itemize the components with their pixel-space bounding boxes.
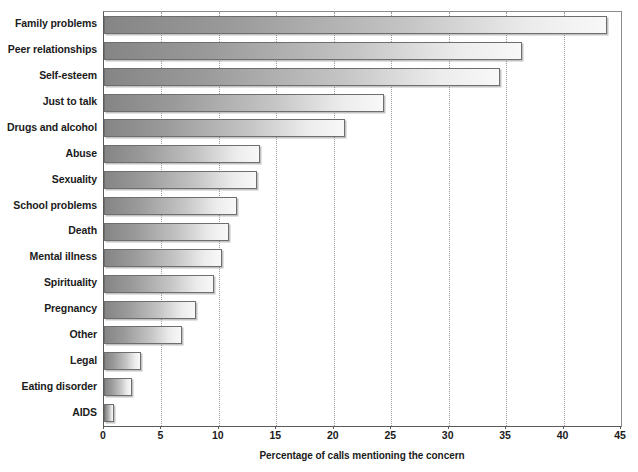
plot-area (103, 11, 622, 427)
category-label: School problems (0, 200, 97, 211)
category-label: Self-esteem (0, 70, 97, 81)
category-label: Death (0, 225, 97, 236)
bar (104, 145, 260, 163)
category-label: Other (0, 329, 97, 340)
category-label: Peer relationships (0, 44, 97, 55)
category-label: Eating disorder (0, 381, 97, 392)
bar (104, 249, 222, 267)
category-label: Pregnancy (0, 303, 97, 314)
bar (104, 119, 345, 137)
bar (104, 352, 141, 370)
bar (104, 223, 229, 241)
category-label: Drugs and alcohol (0, 122, 97, 133)
category-label: Just to talk (0, 96, 97, 107)
x-tick-label: 20 (313, 429, 353, 441)
category-label: Sexuality (0, 174, 97, 185)
x-tick-label: 40 (543, 429, 583, 441)
category-label: Abuse (0, 148, 97, 159)
bar (104, 404, 114, 422)
x-tick-label: 30 (428, 429, 468, 441)
category-label: Mental illness (0, 251, 97, 262)
x-tick-label: 35 (485, 429, 525, 441)
category-label: Spirituality (0, 277, 97, 288)
category-axis: Family problemsPeer relationshipsSelf-es… (0, 11, 97, 425)
bar-chart: Family problemsPeer relationshipsSelf-es… (0, 0, 638, 472)
bar (104, 301, 196, 319)
x-tick-label: 5 (140, 429, 180, 441)
x-tick-label: 45 (600, 429, 638, 441)
bar (104, 171, 257, 189)
x-tick-label: 10 (198, 429, 238, 441)
category-label: Legal (0, 355, 97, 366)
bar (104, 275, 214, 293)
bar (104, 326, 182, 344)
bar-series (104, 12, 621, 426)
x-tick-label: 0 (83, 429, 123, 441)
bar (104, 94, 384, 112)
bar (104, 378, 132, 396)
bar (104, 68, 500, 86)
x-tick-label: 25 (370, 429, 410, 441)
bar (104, 197, 237, 215)
x-axis: 051015202530354045 (103, 426, 621, 446)
x-tick-label: 15 (255, 429, 295, 441)
bar (104, 16, 607, 34)
bar (104, 42, 522, 60)
x-axis-title: Percentage of calls mentioning the conce… (103, 450, 621, 461)
category-label: Family problems (0, 18, 97, 29)
category-label: AIDS (0, 407, 97, 418)
